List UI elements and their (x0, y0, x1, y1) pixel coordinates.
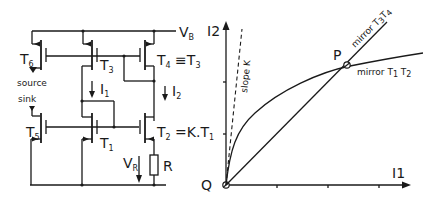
transistor-t1 (82, 113, 97, 185)
i2-arrow-icon (162, 94, 168, 101)
characteristic-graph: I2 I1 Q slope K mirror T3T4 mirror T1 T2… (201, 6, 423, 193)
transistor-t3 (82, 31, 97, 117)
label-i1: I1 (100, 81, 109, 99)
sink-label: sink (18, 94, 37, 104)
x-axis-arrow-icon (402, 182, 411, 189)
resistor-r (150, 155, 158, 175)
x-axis-label: I1 (392, 165, 405, 181)
label-r: R (163, 158, 173, 174)
label-t5: T5 (25, 124, 40, 142)
label-t4: T4 ≡T3 (156, 52, 200, 70)
figure-canvas: VB T6 source T (0, 0, 443, 205)
i1-arrow-icon (89, 91, 95, 98)
supply-label: VB (179, 24, 194, 42)
label-t6: T6 (19, 51, 34, 69)
label-t1: T1 (99, 135, 114, 153)
origin-label: Q (201, 177, 212, 193)
circuit-schematic: VB T6 source T (17, 24, 214, 187)
label-t3: T3 (99, 57, 114, 75)
transistor-t2 (140, 113, 154, 155)
y-axis-arrow-icon (223, 21, 230, 30)
label-vr: VR (123, 155, 139, 173)
slope-k-line (226, 29, 242, 185)
label-t2: T2 =K.T1 (156, 124, 214, 142)
label-mirror-t1-t2: mirror T1 T2 (357, 67, 411, 79)
y-axis-label: I2 (207, 23, 220, 39)
vr-arrow-icon (136, 175, 142, 183)
intersection-label: P (333, 47, 341, 63)
slope-k-label: slope K (239, 59, 252, 94)
label-i2: I2 (172, 83, 181, 101)
source-label: source (17, 78, 47, 88)
transistor-t4 (124, 31, 156, 121)
label-mirror-t3-t4: mirror T3T4 (349, 6, 394, 51)
series-mirror-t3-t4 (226, 22, 387, 185)
